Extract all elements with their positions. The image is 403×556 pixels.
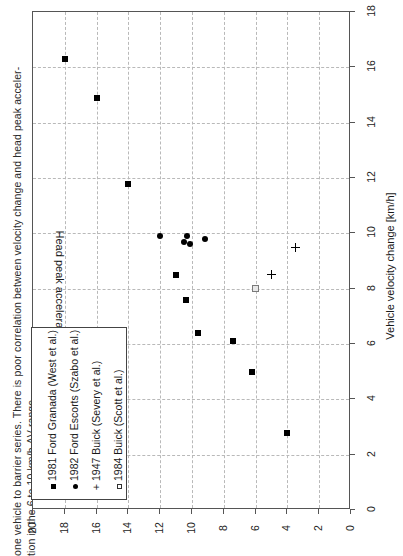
gridline-vertical bbox=[160, 12, 161, 508]
y-axis-tick-label: 2 bbox=[311, 517, 325, 539]
x-axis-tick-label: 0 bbox=[364, 498, 378, 520]
legend-marker-plus-icon: + bbox=[90, 481, 102, 493]
x-axis-tick bbox=[350, 177, 355, 178]
data-point bbox=[181, 239, 187, 245]
data-point bbox=[202, 236, 208, 242]
data-point bbox=[157, 233, 163, 239]
data-point bbox=[284, 430, 290, 436]
gridline-horizontal bbox=[33, 123, 349, 124]
y-axis-tick-label: 18 bbox=[57, 517, 71, 539]
legend-marker-filled-square-icon bbox=[46, 481, 58, 493]
y-axis-tick-label: 16 bbox=[89, 517, 103, 539]
y-axis-tick bbox=[255, 509, 256, 514]
legend: 1981 Ford Granada (West et al.)1982 Ford… bbox=[31, 327, 127, 500]
gridline-horizontal bbox=[33, 67, 349, 68]
data-point bbox=[267, 270, 276, 279]
gridline-horizontal bbox=[33, 178, 349, 179]
y-axis-tick-label: 8 bbox=[216, 517, 230, 539]
legend-marker-open-square-icon bbox=[112, 481, 124, 493]
x-axis-tick bbox=[350, 232, 355, 233]
y-axis-tick bbox=[64, 509, 65, 514]
x-axis-tick-label: 12 bbox=[364, 166, 378, 188]
gridline-vertical bbox=[256, 12, 257, 508]
x-axis-tick-label: 16 bbox=[364, 55, 378, 77]
x-axis-tick-label: 14 bbox=[364, 111, 378, 133]
legend-marker-filled-circle-icon bbox=[68, 481, 80, 493]
y-axis-tick bbox=[318, 509, 319, 514]
y-axis-tick bbox=[96, 509, 97, 514]
x-axis-tick-label: 4 bbox=[364, 387, 378, 409]
gridline-horizontal bbox=[33, 233, 349, 234]
data-point bbox=[125, 181, 131, 187]
x-axis-tick-label: 18 bbox=[364, 0, 378, 22]
x-axis-tick-label: 10 bbox=[364, 221, 378, 243]
y-axis-tick-label: 20 bbox=[25, 517, 39, 539]
gridline-vertical bbox=[319, 12, 320, 508]
y-axis-tick-label: 14 bbox=[120, 517, 134, 539]
gridline-vertical bbox=[224, 12, 225, 508]
x-axis-tick-label: 2 bbox=[364, 443, 378, 465]
y-axis-tick-label: 12 bbox=[152, 517, 166, 539]
y-axis-tick bbox=[350, 509, 351, 514]
caption-line-1: one vehicle to barrier series. There is … bbox=[11, 0, 23, 556]
y-axis-tick bbox=[159, 509, 160, 514]
x-axis-tick bbox=[350, 454, 355, 455]
y-axis-tick bbox=[32, 509, 33, 514]
data-point bbox=[249, 369, 255, 375]
legend-label: 1981 Ford Granada (West et al.) bbox=[46, 330, 58, 481]
x-axis-title: Vehicle velocity change [km/h] bbox=[384, 166, 396, 366]
y-axis-tick-label: 0 bbox=[343, 517, 357, 539]
x-axis-tick bbox=[350, 11, 355, 12]
data-point bbox=[184, 233, 190, 239]
data-point bbox=[62, 56, 68, 62]
data-point bbox=[195, 330, 201, 336]
y-axis-tick-label: 6 bbox=[248, 517, 262, 539]
legend-label: 1947 Buick (Severy et al.) bbox=[90, 361, 102, 481]
x-axis-tick-label: 8 bbox=[364, 277, 378, 299]
gridline-vertical bbox=[128, 12, 129, 508]
x-axis-tick bbox=[350, 398, 355, 399]
data-point bbox=[173, 272, 179, 278]
legend-entry: 1981 Ford Granada (West et al.) bbox=[46, 330, 58, 493]
y-axis-tick bbox=[191, 509, 192, 514]
data-point bbox=[183, 297, 189, 303]
y-axis-tick-label: 4 bbox=[279, 517, 293, 539]
legend-label: 1984 Buick (Scott et al.) bbox=[112, 370, 124, 481]
legend-label: 1982 Ford Escorts (Szabo et al.) bbox=[68, 330, 80, 481]
data-point bbox=[291, 243, 300, 252]
legend-entry: +1947 Buick (Severy et al.) bbox=[90, 361, 102, 493]
x-axis-tick bbox=[350, 66, 355, 67]
y-axis-tick bbox=[223, 509, 224, 514]
x-axis-tick bbox=[350, 122, 355, 123]
legend-entry: 1982 Ford Escorts (Szabo et al.) bbox=[68, 330, 80, 493]
gridline-horizontal bbox=[33, 289, 349, 290]
x-axis-tick bbox=[350, 288, 355, 289]
y-axis-tick bbox=[286, 509, 287, 514]
data-point bbox=[252, 285, 259, 292]
x-axis-tick bbox=[350, 343, 355, 344]
legend-entry: 1984 Buick (Scott et al.) bbox=[112, 370, 124, 493]
y-axis-tick bbox=[127, 509, 128, 514]
x-axis-tick-label: 6 bbox=[364, 332, 378, 354]
gridline-vertical bbox=[192, 12, 193, 508]
y-axis-tick-label: 10 bbox=[184, 517, 198, 539]
data-point bbox=[94, 95, 100, 101]
data-point bbox=[230, 338, 236, 344]
